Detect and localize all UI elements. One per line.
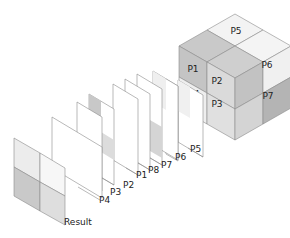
layer-label-p6: P6 (175, 152, 186, 162)
layer-p1 (113, 84, 138, 175)
cube-label-right-upper: P6 (261, 60, 272, 70)
result-label: Result (64, 217, 92, 227)
layer-label-p3: P3 (110, 187, 121, 197)
layer-label-p5: P5 (190, 144, 201, 154)
layer-label-p4: P4 (99, 195, 110, 205)
cube-label-front-lower: P3 (211, 99, 222, 109)
layer-label-p2: P2 (123, 180, 134, 190)
diagram-canvas: P5 P1 P2 P6 P4 P3 P7 (0, 0, 290, 238)
cube-label-left-upper: P1 (187, 64, 198, 74)
cube-label-top: P5 (230, 26, 241, 36)
layer-label-p1: P1 (136, 170, 147, 180)
layer-label-p7: P7 (161, 160, 172, 170)
cube-label-right-lower: P7 (262, 91, 273, 101)
cube-label-front-upper: P2 (211, 76, 222, 86)
exploded-cube-diagram: P5 P1 P2 P6 P4 P3 P7 (0, 0, 290, 238)
layer-label-p8: P8 (148, 165, 159, 175)
